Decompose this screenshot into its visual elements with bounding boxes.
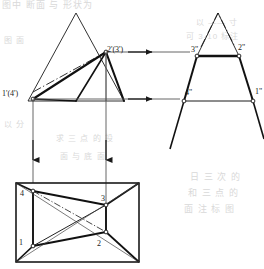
top-edge-corner-br-to-2 bbox=[106, 232, 139, 262]
top-edge-corner-bl-to-1 bbox=[16, 246, 33, 262]
side-view-group bbox=[170, 13, 264, 149]
label-front-14: 1'(4') bbox=[2, 89, 19, 98]
vertex-labels-group: 2'(3') 1'(4') 3" 2" 4" 1" 4 3 1 2 bbox=[2, 43, 262, 248]
front-edge-23-apexfoot bbox=[76, 52, 106, 101]
label-side-3: 3" bbox=[191, 45, 198, 54]
top-node-2 bbox=[104, 230, 108, 234]
side-edge-below-right bbox=[253, 101, 264, 139]
top-edge-corner-tl-to-4 bbox=[16, 183, 33, 191]
front-section-edge-14-23 bbox=[33, 52, 106, 99]
label-top-4: 4 bbox=[20, 189, 24, 198]
side-outline-right-edge-lower bbox=[239, 56, 253, 101]
drawing-canvas: 2'(3') 1'(4') 3" 2" 4" 1" 4 3 1 2 bbox=[0, 0, 264, 269]
side-node-3 bbox=[195, 54, 199, 58]
label-side-1: 1" bbox=[255, 87, 262, 96]
side-node-4 bbox=[182, 99, 186, 103]
side-edge-below-left bbox=[170, 101, 184, 149]
label-front-23: 2'(3') bbox=[107, 45, 124, 54]
label-top-2: 2 bbox=[97, 239, 101, 248]
label-side-4: 4" bbox=[185, 88, 192, 97]
top-view-group bbox=[16, 183, 139, 262]
front-view-group bbox=[28, 13, 124, 101]
label-top-1: 1 bbox=[19, 238, 23, 247]
side-section-plane-trace bbox=[201, 13, 235, 47]
label-top-3: 3 bbox=[101, 194, 105, 203]
front-section-edge-23-base bbox=[106, 52, 124, 101]
side-node-1 bbox=[251, 99, 255, 103]
top-section-edge-4-3 bbox=[33, 191, 106, 205]
projector-arrows-group bbox=[33, 52, 190, 205]
top-node-4 bbox=[31, 189, 35, 193]
technical-drawing-figure: 图中 断面 与 形状为 以 —— 寸 可 3-10 标注 日 三 次 的 和 三… bbox=[0, 0, 264, 269]
top-node-1 bbox=[31, 244, 35, 248]
top-node-3 bbox=[104, 203, 108, 207]
label-side-2: 2" bbox=[238, 43, 245, 52]
side-node-2 bbox=[237, 54, 241, 58]
